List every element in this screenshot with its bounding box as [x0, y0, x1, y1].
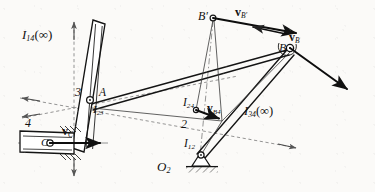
label-i34: I34(∞) [244, 105, 273, 119]
label-vector-vbprime: vB′ [235, 6, 247, 20]
vector-vbprime [213, 18, 296, 33]
label-i12: I12 [184, 138, 195, 151]
pivot-joint-o2-center [200, 154, 202, 156]
i34-right-arrow [278, 144, 296, 148]
i34-left-arrow [22, 98, 40, 101]
label-i23: I23 [93, 104, 103, 117]
bprime-o2-line [200, 21, 213, 156]
tick-5 [60, 154, 66, 160]
label-i14: I14(∞) [22, 28, 52, 43]
ground-pivot-o2 [186, 152, 218, 173]
label-link-4: 4 [25, 117, 31, 129]
label-o2: O2 [157, 160, 170, 175]
label-link-2: 2 [181, 118, 187, 130]
link3-edge-a [91, 50, 287, 104]
label-vector-vc: vC [62, 125, 73, 139]
auxiliary-struts [92, 20, 292, 155]
label-point-c: C [41, 137, 48, 148]
joint-a-center [89, 99, 91, 101]
strut-i24-to-bprime [196, 20, 213, 110]
label-point-a: A [99, 87, 106, 99]
figure-canvas: I14(∞) I23 I24 I34(∞) I12 O2 2 3 4 A B B… [0, 0, 375, 192]
label-vector-vb: vB [289, 31, 300, 45]
kinematic-diagram-svg [0, 0, 375, 192]
label-i24: I24 [183, 97, 194, 110]
vector-vb [290, 48, 347, 89]
ground-hatching [186, 167, 218, 173]
label-link-3: 3 [75, 86, 81, 98]
label-point-b: B [279, 42, 286, 54]
tick-8 [75, 154, 81, 160]
tick-6 [65, 154, 71, 160]
tick-7 [70, 154, 76, 160]
label-point-bprime: B′ [198, 10, 208, 22]
label-vector-vb4: vB4 [207, 103, 221, 116]
